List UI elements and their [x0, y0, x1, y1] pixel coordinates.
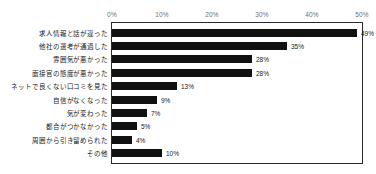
bar-value-label: 49% — [361, 28, 374, 37]
category-label: 求人情報と話が違った — [39, 28, 108, 37]
bar-row: ネットで良くない口コミを見た13% — [0, 80, 376, 93]
bar-row: 雰囲気が悪かった28% — [0, 53, 376, 66]
category-label: 面接官の態度が悪かった — [32, 68, 108, 77]
bar — [112, 149, 162, 157]
category-label: その他 — [87, 149, 108, 158]
x-tick-label-2: 20% — [205, 10, 219, 20]
bar-wrapper — [112, 96, 157, 104]
bar-wrapper — [112, 82, 177, 90]
bar-row: 求人情報と話が違った49% — [0, 26, 376, 39]
bar-value-label: 5% — [141, 122, 150, 131]
category-label: 気が変わった — [67, 109, 108, 118]
category-label: 自信がなくなった — [53, 95, 108, 104]
bar-value-label: 13% — [181, 82, 194, 91]
x-tick-label-3: 30% — [255, 10, 269, 20]
bar-chart: 0%10%20%30%40%50% 求人情報と話が違った49%他社の選考が通過し… — [0, 0, 376, 174]
bar-value-label: 7% — [151, 109, 160, 118]
bar — [112, 69, 252, 77]
bar-row: 自信がなくなった9% — [0, 93, 376, 106]
bar-wrapper — [112, 69, 252, 77]
bar-value-label: 35% — [291, 42, 304, 51]
bar-value-label: 4% — [136, 135, 145, 144]
bar-row: 気が変わった7% — [0, 106, 376, 119]
bar-value-label: 28% — [256, 55, 269, 64]
bar-wrapper — [112, 136, 132, 144]
bar-value-label: 9% — [161, 95, 170, 104]
bar — [112, 29, 357, 37]
bar-value-label: 28% — [256, 68, 269, 77]
bar — [112, 82, 177, 90]
bar — [112, 96, 157, 104]
bar — [112, 55, 252, 63]
x-tick-label-5: 50% — [355, 10, 369, 20]
category-label: 他社の選考が通過した — [39, 42, 108, 51]
x-tick-label-0: 0% — [107, 10, 117, 20]
x-axis-tick-labels: 0%10%20%30%40%50% — [0, 10, 376, 22]
bar-row: 都合がつかなかった5% — [0, 120, 376, 133]
category-label: 都合がつかなかった — [46, 122, 108, 131]
bar-wrapper — [112, 109, 147, 117]
bar-wrapper — [112, 42, 287, 50]
bar — [112, 42, 287, 50]
bar-value-label: 10% — [166, 149, 179, 158]
bar-wrapper — [112, 55, 252, 63]
bar — [112, 109, 147, 117]
bar — [112, 136, 132, 144]
x-tick-label-1: 10% — [155, 10, 169, 20]
x-tick-label-4: 40% — [305, 10, 319, 20]
bar-wrapper — [112, 149, 162, 157]
category-label: 雰囲気が悪かった — [53, 55, 108, 64]
bar-wrapper — [112, 122, 137, 130]
bar — [112, 122, 137, 130]
category-label: 周囲から引き留められた — [32, 135, 108, 144]
bar-row: その他10% — [0, 147, 376, 160]
bar-rows: 求人情報と話が違った49%他社の選考が通過した35%雰囲気が悪かった28%面接官… — [0, 22, 376, 164]
bar-row: 他社の選考が通過した35% — [0, 39, 376, 52]
bar-row: 周囲から引き留められた4% — [0, 133, 376, 146]
bar-wrapper — [112, 29, 357, 37]
category-label: ネットで良くない口コミを見た — [11, 82, 108, 91]
bar-row: 面接官の態度が悪かった28% — [0, 66, 376, 79]
